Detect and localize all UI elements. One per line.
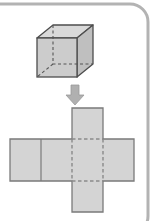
cube-solid (33, 22, 97, 82)
down-arrow (62, 84, 88, 106)
cube-net (4, 104, 144, 216)
cube-front-face (37, 38, 77, 77)
figure-root: cube net of a cube A three-dimensional c… (0, 0, 156, 221)
down-arrow-glyph (66, 85, 84, 105)
net-vertical-band-fill (72, 108, 103, 212)
